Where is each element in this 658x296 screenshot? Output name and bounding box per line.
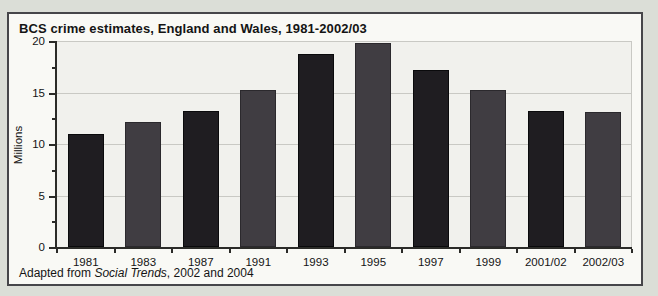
y-tick-20 [49, 41, 56, 43]
x-tick-label-1993: 1993 [287, 255, 345, 269]
bar-1983 [125, 122, 161, 247]
y-tick-0 [49, 247, 56, 249]
bar-1993 [298, 54, 334, 247]
bar-1987 [183, 111, 219, 247]
x-tick-label-2001/02: 2001/02 [517, 255, 575, 269]
y-tick-label-10: 10 [15, 137, 45, 151]
y-tick-15 [49, 93, 56, 95]
x-tick-6 [401, 249, 403, 253]
x-tick-8 [516, 249, 518, 253]
x-tick-1 [114, 249, 116, 253]
y-tick-5 [49, 196, 56, 198]
x-tick-label-1991: 1991 [230, 255, 288, 269]
x-tick-7 [459, 249, 461, 253]
x-tick-label-1997: 1997 [402, 255, 460, 269]
chart-figure: BCS crime estimates, England and Wales, … [7, 12, 643, 286]
bar-1981 [68, 134, 104, 247]
x-tick-label-1981: 1981 [57, 255, 115, 269]
x-tick-0 [56, 249, 58, 253]
bar-1997 [413, 70, 449, 247]
bar-2001/02 [528, 111, 564, 247]
x-tick-2 [171, 249, 173, 253]
y-tick-label-0: 0 [15, 240, 45, 254]
x-tick-label-2002/03: 2002/03 [575, 255, 633, 269]
x-tick-3 [229, 249, 231, 253]
y-minor-tick-7.5 [52, 170, 56, 172]
y-tick-label-5: 5 [15, 189, 45, 203]
bar-2002/03 [585, 112, 621, 247]
bar-1991 [240, 90, 276, 247]
y-tick-label-15: 15 [15, 86, 45, 100]
x-tick-label-1999: 1999 [460, 255, 518, 269]
y-minor-tick-12.5 [52, 118, 56, 120]
y-minor-tick-2.5 [52, 221, 56, 223]
bar-1995 [355, 43, 391, 247]
x-tick-5 [344, 249, 346, 253]
figure-page: BCS crime estimates, England and Wales, … [0, 0, 658, 296]
y-tick-label-20: 20 [15, 34, 45, 48]
x-tick-label-1995: 1995 [345, 255, 403, 269]
y-tick-10 [49, 144, 56, 146]
bar-1999 [470, 90, 506, 247]
x-tick-9 [574, 249, 576, 253]
x-tick-10 [631, 249, 633, 253]
x-tick-label-1987: 1987 [172, 255, 230, 269]
gridline-15 [57, 93, 632, 94]
x-tick-4 [286, 249, 288, 253]
chart-title: BCS crime estimates, England and Wales, … [19, 21, 367, 36]
y-minor-tick-17.5 [52, 67, 56, 69]
x-tick-label-1983: 1983 [115, 255, 173, 269]
